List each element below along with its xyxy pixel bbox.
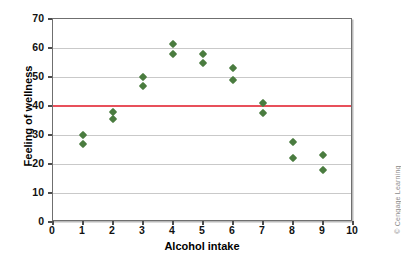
y-tick-label-70: 70	[20, 12, 44, 24]
x-tick-label-9: 9	[312, 224, 332, 236]
x-tick-label-6: 6	[222, 224, 242, 236]
x-tick-label-1: 1	[72, 224, 92, 236]
data-point	[139, 81, 147, 89]
x-axis-title: Alcohol intake	[52, 240, 352, 252]
x-tick-label-2: 2	[102, 224, 122, 236]
data-point	[259, 109, 267, 117]
data-point	[199, 58, 207, 66]
data-point	[169, 39, 177, 47]
data-point	[289, 154, 297, 162]
y-tick-mark-30	[48, 134, 52, 136]
x-tick-label-7: 7	[252, 224, 272, 236]
gridline-y-50	[53, 77, 351, 78]
y-tick-mark-60	[48, 47, 52, 49]
reference-line	[53, 105, 351, 107]
x-tick-label-3: 3	[132, 224, 152, 236]
gridline-y-30	[53, 135, 351, 136]
y-tick-mark-40	[48, 105, 52, 107]
y-tick-mark-20	[48, 163, 52, 165]
y-tick-label-0: 0	[20, 215, 44, 227]
copyright-credit: © Cengage Learning	[394, 140, 401, 260]
data-point	[289, 138, 297, 146]
data-point	[79, 139, 87, 147]
x-tick-label-0: 0	[42, 224, 62, 236]
y-tick-mark-10	[48, 192, 52, 194]
gridline-y-20	[53, 164, 351, 165]
data-point	[79, 131, 87, 139]
gridline-y-10	[53, 193, 351, 194]
data-point	[229, 64, 237, 72]
plot-area	[52, 18, 352, 221]
x-tick-label-5: 5	[192, 224, 212, 236]
data-point	[109, 115, 117, 123]
x-tick-label-8: 8	[282, 224, 302, 236]
y-tick-label-40: 40	[20, 99, 44, 111]
y-tick-label-60: 60	[20, 41, 44, 53]
y-tick-label-50: 50	[20, 70, 44, 82]
y-tick-mark-70	[48, 18, 52, 20]
x-tick-label-4: 4	[162, 224, 182, 236]
y-tick-label-30: 30	[20, 128, 44, 140]
y-tick-label-20: 20	[20, 157, 44, 169]
y-tick-label-10: 10	[20, 186, 44, 198]
x-tick-label-10: 10	[342, 224, 362, 236]
data-point	[199, 50, 207, 58]
data-point	[319, 151, 327, 159]
data-point	[139, 73, 147, 81]
y-tick-mark-50	[48, 76, 52, 78]
data-point	[319, 166, 327, 174]
data-point	[169, 50, 177, 58]
